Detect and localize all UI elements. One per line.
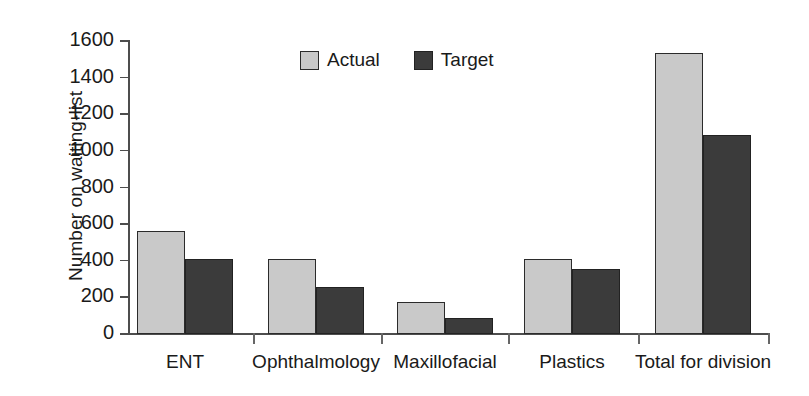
x-axis-label-ophthalmology: Ophthalmology [252, 350, 380, 373]
category-separator-tick [638, 333, 640, 344]
bar-chart: Number on waiting-list 02004006008001000… [0, 0, 809, 396]
legend-label-target: Target [441, 49, 494, 71]
y-axis-tick: 1400 [120, 77, 128, 79]
y-axis-tick-label: 1400 [70, 64, 115, 88]
category-separator-tick [253, 333, 255, 344]
category-separator-tick [381, 333, 383, 344]
y-axis-tick: 1000 [120, 150, 128, 152]
bar-target-ent[interactable] [185, 259, 233, 334]
bar-actual-ophthalmology[interactable] [268, 259, 316, 334]
y-axis-tick-label: 800 [81, 174, 114, 198]
x-axis-label-plastics: Plastics [539, 350, 604, 373]
y-axis-tick: 800 [120, 187, 128, 189]
bar-target-maxillofacial[interactable] [445, 318, 493, 334]
y-axis-tick-label: 1000 [70, 137, 115, 161]
y-axis-line [128, 40, 130, 334]
bar-target-plastics[interactable] [572, 269, 620, 334]
y-axis-tick: 1200 [120, 113, 128, 115]
bar-target-ophthalmology[interactable] [316, 287, 364, 334]
y-axis-tick: 200 [120, 296, 128, 298]
y-axis-tick: 0 [120, 333, 128, 335]
legend-item-actual[interactable]: Actual [300, 49, 380, 71]
category-separator-tick [768, 333, 770, 344]
plot-area: 02004006008001000120014001600 ENTOphthal… [128, 40, 769, 334]
category-separator-tick [508, 333, 510, 344]
y-axis-tick-label: 400 [81, 247, 114, 271]
legend-item-target[interactable]: Target [414, 49, 494, 71]
legend-swatch-target-icon [414, 51, 433, 70]
legend-label-actual: Actual [327, 49, 380, 71]
y-axis-tick-label: 200 [81, 283, 114, 307]
x-axis-label-total-for-division: Total for division [635, 350, 771, 373]
bar-actual-maxillofacial[interactable] [397, 302, 445, 334]
legend-swatch-actual-icon [300, 51, 319, 70]
y-axis-tick: 400 [120, 260, 128, 262]
y-axis-tick-label: 1600 [70, 27, 115, 51]
y-axis-tick: 600 [120, 223, 128, 225]
bar-actual-plastics[interactable] [524, 259, 572, 334]
y-axis-tick: 1600 [120, 40, 128, 42]
y-axis-tick-label: 0 [103, 320, 114, 344]
bar-actual-ent[interactable] [137, 231, 185, 334]
y-axis-tick-label: 600 [81, 210, 114, 234]
chart-legend: Actual Target [300, 49, 494, 71]
y-axis-tick-label: 1200 [70, 100, 115, 124]
x-axis-label-ent: ENT [166, 350, 204, 373]
bar-target-total-for-division[interactable] [703, 135, 751, 334]
bar-actual-total-for-division[interactable] [655, 53, 703, 334]
x-axis-label-maxillofacial: Maxillofacial [393, 350, 496, 373]
